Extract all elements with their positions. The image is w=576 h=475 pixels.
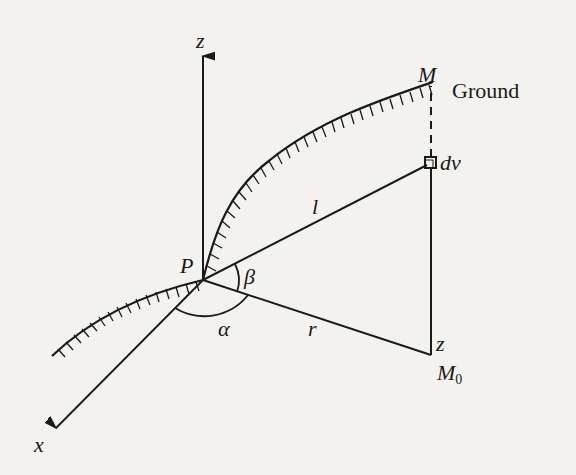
z-axis-label: z xyxy=(196,30,205,52)
angle-beta-arc xyxy=(235,264,239,292)
ground-surface-left xyxy=(52,280,203,357)
line-l xyxy=(203,165,427,280)
x-axis-label: x xyxy=(34,434,44,456)
x-axis xyxy=(56,280,203,428)
diagram-lines xyxy=(0,0,576,475)
angle-beta-label: β xyxy=(244,266,255,288)
angle-alpha-label: α xyxy=(218,318,230,340)
ground-label: Ground xyxy=(452,80,519,102)
distance-r-label: r xyxy=(308,318,317,340)
point-M0-label: M0 xyxy=(437,362,462,387)
ground-surface-right xyxy=(203,82,433,280)
volume-element-box xyxy=(425,157,436,168)
point-M0-base: M xyxy=(437,360,455,385)
point-M0-subscript: 0 xyxy=(455,372,462,387)
point-M-label: M xyxy=(418,64,436,86)
height-z-label: z xyxy=(436,333,445,355)
point-P-label: P xyxy=(180,255,193,277)
distance-l-label: l xyxy=(312,196,318,218)
terrain-correction-diagram: z x P M Ground dv l r z M0 α β xyxy=(0,0,576,475)
volume-element-label: dv xyxy=(440,152,461,174)
